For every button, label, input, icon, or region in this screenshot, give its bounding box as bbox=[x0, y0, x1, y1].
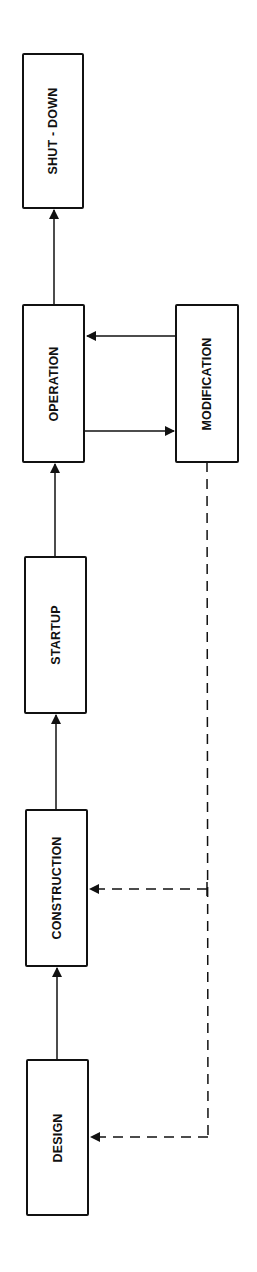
node-operation: OPERATION bbox=[22, 304, 85, 463]
node-modification-label: MODIFICATION bbox=[200, 337, 214, 430]
lifecycle-diagram: SHUT - DOWN OPERATION MODIFICATION START… bbox=[0, 0, 257, 1272]
node-operation-label: OPERATION bbox=[47, 346, 61, 421]
node-modification: MODIFICATION bbox=[175, 304, 239, 463]
dashed-feedback-vertical bbox=[207, 462, 208, 1137]
node-construction: CONSTRUCTION bbox=[25, 809, 88, 967]
node-design: DESIGN bbox=[26, 1059, 89, 1216]
node-design-label: DESIGN bbox=[51, 1113, 65, 1162]
node-startup-label: STARTUP bbox=[49, 605, 63, 665]
node-construction-label: CONSTRUCTION bbox=[50, 836, 64, 939]
node-startup: STARTUP bbox=[24, 556, 87, 714]
node-shutdown: SHUT - DOWN bbox=[22, 53, 84, 209]
node-shutdown-label: SHUT - DOWN bbox=[46, 88, 60, 175]
